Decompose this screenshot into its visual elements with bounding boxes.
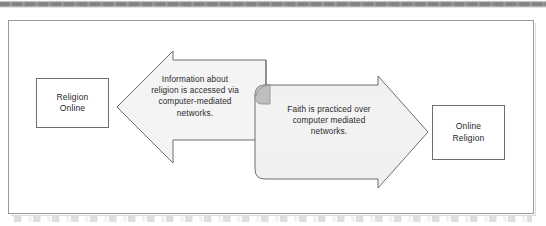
label-box-religion-online[interactable]: Religion Online (36, 78, 109, 128)
label-box-online-religion[interactable]: Online Religion (432, 105, 505, 160)
label-box-online-religion-line-2: Religion (453, 133, 485, 145)
arrow-caption-online-religion-line-1: Faith is practiced over (268, 104, 390, 115)
label-box-online-religion-line-1: Online (456, 121, 481, 133)
arrow-caption-religion-online-line-2: religion is accessed via (131, 85, 259, 96)
arrow-caption-online-religion: Faith is practiced over computer mediate… (268, 104, 390, 138)
figure-root: Religion Online Online Religion Informat… (0, 0, 546, 226)
label-box-religion-online-line-1: Religion (57, 92, 89, 104)
arrow-caption-religion-online-line-3: computer-mediated (131, 96, 259, 107)
arrow-caption-religion-online-line-4: networks. (131, 108, 259, 119)
arrow-caption-online-religion-line-2: computer mediated (268, 115, 390, 126)
arrow-caption-religion-online: Information about religion is accessed v… (131, 74, 259, 119)
arrow-caption-online-religion-line-3: networks. (268, 126, 390, 137)
scan-artifact-bottom-smudge (14, 216, 532, 222)
arrow-caption-religion-online-line-1: Information about (131, 74, 259, 85)
label-box-religion-online-line-2: Online (60, 103, 85, 115)
